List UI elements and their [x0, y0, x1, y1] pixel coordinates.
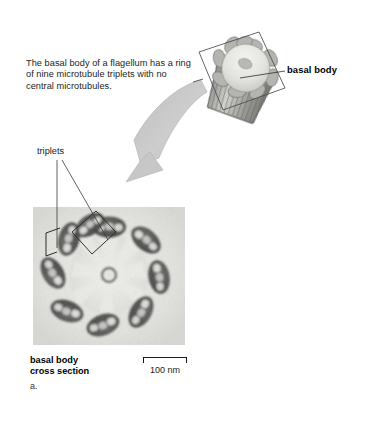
caption-line-1: basal body [30, 355, 89, 366]
label-basal-body: basal body [287, 64, 337, 75]
scale-bar-line [143, 357, 187, 364]
label-triplets: triplets [37, 146, 64, 156]
caption-line-2: cross section [30, 366, 89, 377]
panel-letter: a. [30, 381, 38, 391]
basal-body-micrograph [33, 207, 185, 345]
callout-description-text: The basal body of a flagellum has a ring… [26, 58, 194, 92]
basal-body-illustration [193, 26, 303, 126]
micrograph-caption: basal body cross section [30, 355, 89, 377]
figure-root: The basal body of a flagellum has a ring… [0, 0, 367, 427]
scale-bar-label: 100 nm [143, 365, 187, 375]
scale-bar: 100 nm [143, 357, 187, 375]
